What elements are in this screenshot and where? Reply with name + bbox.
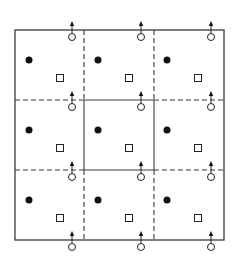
arrow-up-icon [209, 231, 213, 236]
filled-circle-icon [95, 127, 102, 134]
open-square-icon [195, 75, 202, 82]
open-circle-icon [208, 174, 215, 181]
arrow-up-icon [209, 161, 213, 166]
arrow-up-icon [139, 91, 143, 96]
arrow-up-icon [139, 21, 143, 26]
open-square-icon [57, 145, 64, 152]
outer-border [15, 30, 224, 240]
arrow-up-icon [70, 161, 74, 166]
filled-circle-icon [164, 197, 171, 204]
open-square-icon [126, 145, 133, 152]
open-square-icon [126, 75, 133, 82]
filled-circle-icon [26, 57, 33, 64]
open-square-icon [57, 75, 64, 82]
filled-circle-icon [26, 197, 33, 204]
open-circle-icon [208, 104, 215, 111]
open-circle-icon [208, 34, 215, 41]
arrow-up-icon [70, 231, 74, 236]
open-square-icon [126, 215, 133, 222]
arrow-up-icon [70, 91, 74, 96]
arrow-up-icon [70, 21, 74, 26]
arrow-up-icon [209, 21, 213, 26]
filled-circle-icon [95, 57, 102, 64]
filled-circle-icon [95, 197, 102, 204]
open-square-icon [57, 215, 64, 222]
arrow-up-icon [139, 161, 143, 166]
open-square-icon [195, 215, 202, 222]
open-circle-icon [138, 34, 145, 41]
open-circle-icon [69, 34, 76, 41]
arrow-up-icon [139, 231, 143, 236]
open-circle-icon [69, 174, 76, 181]
filled-circle-icon [164, 57, 171, 64]
open-square-icon [195, 145, 202, 152]
open-circle-icon [69, 244, 76, 251]
open-circle-icon [138, 104, 145, 111]
arrow-up-icon [209, 91, 213, 96]
open-circle-icon [138, 244, 145, 251]
grid-diagram [0, 0, 233, 265]
open-circle-icon [69, 104, 76, 111]
filled-circle-icon [26, 127, 33, 134]
open-circle-icon [138, 174, 145, 181]
open-circle-icon [208, 244, 215, 251]
filled-circle-icon [164, 127, 171, 134]
